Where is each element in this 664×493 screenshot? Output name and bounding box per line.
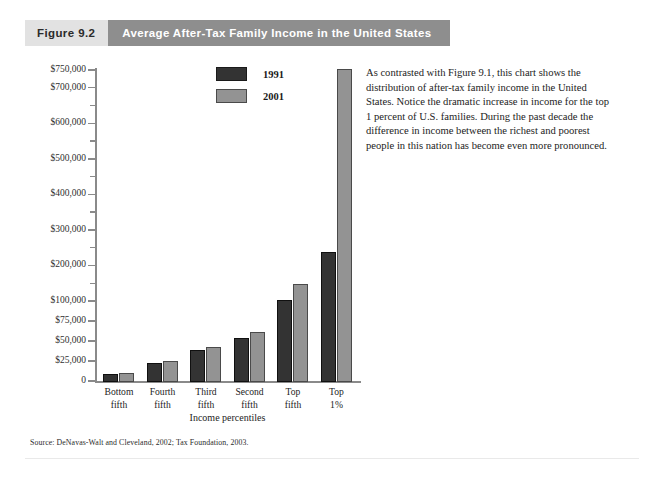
y-axis-tick	[88, 158, 95, 159]
bar-1991	[321, 252, 336, 382]
bar-2001	[119, 373, 134, 382]
figure-title: Average After-Tax Family Income in the U…	[108, 20, 449, 46]
bar-group	[103, 68, 145, 382]
y-axis-tick-label: $750,000	[50, 64, 86, 74]
bar-2001	[250, 332, 265, 382]
y-axis-tick-label: $600,000	[50, 117, 86, 127]
y-axis-tick	[88, 360, 95, 361]
y-axis-tick-label: $500,000	[50, 153, 86, 163]
bottom-divider	[25, 458, 639, 459]
bar-group	[190, 68, 232, 382]
bar-group	[147, 68, 189, 382]
y-axis-tick	[88, 87, 95, 88]
y-axis-minor-tick	[90, 140, 95, 141]
bar-2001	[337, 69, 352, 382]
y-axis-tick	[88, 300, 95, 301]
figure-source: Source: DeNavas-Walt and Cleveland, 2002…	[30, 438, 249, 447]
y-axis-tick	[88, 123, 95, 124]
y-axis-tick-label: $50,000	[55, 335, 86, 345]
x-axis-title: Income percentiles	[120, 412, 335, 423]
bar-2001	[206, 347, 221, 382]
x-axis-tick-label: Top1%	[309, 386, 365, 411]
y-axis-minor-tick	[90, 176, 95, 177]
y-axis-tick	[88, 194, 95, 195]
y-axis-tick	[88, 229, 95, 230]
y-axis-tick-label: $25,000	[55, 355, 86, 365]
x-axis-tick-label-line: Top	[309, 386, 365, 399]
x-axis-tick-label-line: 1%	[309, 399, 365, 412]
figure-header: Figure 9.2 Average After-Tax Family Inco…	[25, 20, 450, 46]
y-axis-tick	[88, 380, 95, 381]
bar-2001	[163, 361, 178, 382]
y-axis-tick	[88, 340, 95, 341]
bar-1991	[103, 374, 118, 382]
plot-area	[95, 68, 360, 382]
y-axis-tick-label: $200,000	[50, 259, 86, 269]
y-axis-minor-tick	[90, 283, 95, 284]
bar-group	[321, 68, 363, 382]
bar-1991	[234, 338, 249, 382]
figure-annotation-text: As contrasted with Figure 9.1, this char…	[366, 66, 614, 154]
figure-card: Figure 9.2 Average After-Tax Family Inco…	[0, 0, 664, 493]
bar-group	[234, 68, 276, 382]
y-axis-tick-label: $700,000	[50, 82, 86, 92]
y-axis-tick-label: 0	[81, 375, 86, 385]
bar-1991	[190, 350, 205, 382]
bar-1991	[147, 363, 162, 382]
bar-2001	[293, 284, 308, 382]
y-axis-tick	[88, 320, 95, 321]
y-axis-minor-tick	[90, 247, 95, 248]
y-axis-tick-label: $300,000	[50, 224, 86, 234]
y-axis-minor-tick	[90, 211, 95, 212]
bar-group	[277, 68, 319, 382]
y-axis-labels: 0$25,000$50,000$75,000$100,000$200,000$3…	[0, 0, 86, 493]
y-axis-tick	[88, 265, 95, 266]
y-axis-minor-tick	[90, 105, 95, 106]
y-axis-tick-label: $75,000	[55, 315, 86, 325]
bar-1991	[277, 300, 292, 382]
y-axis-tick-label: $100,000	[50, 295, 86, 305]
y-axis-tick	[88, 69, 95, 70]
y-axis-tick-label: $400,000	[50, 188, 86, 198]
